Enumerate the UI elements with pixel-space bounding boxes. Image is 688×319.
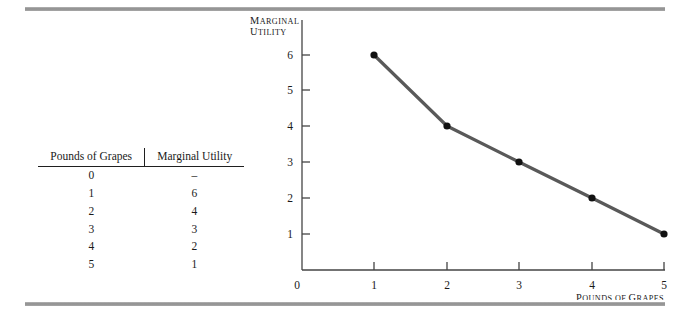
cell-pounds: 2 [38,203,145,221]
y-tick-label-5: 5 [287,84,293,96]
y-axis-label: MARGINAL [250,15,299,26]
table-header-row: Pounds of Grapes Marginal Utility [38,148,244,167]
cell-utility: 1 [145,256,244,274]
table-body: 0 – 1 6 2 4 3 3 4 2 5 1 [38,167,244,275]
cell-utility: 6 [145,185,244,203]
y-axis-label-line2: UTILITY [250,26,287,37]
data-point-2 [443,122,450,129]
table: Pounds of Grapes Marginal Utility 0 – 1 … [38,148,244,274]
column-header-marginal-utility: Marginal Utility [145,148,244,167]
cell-utility: 2 [145,238,244,256]
x-axis-tick-labels: 0 1 2 3 4 5 [294,279,667,291]
data-point-1 [370,51,377,58]
table-row: 5 1 [38,256,244,274]
x-tick-label-1: 1 [371,279,377,291]
table-row: 4 2 [38,238,244,256]
cell-pounds: 4 [38,238,145,256]
cell-utility: – [145,167,244,185]
cell-pounds: 3 [38,221,145,239]
x-axis-label-rest-2: RAPES [637,294,665,300]
y-tick-label-4: 4 [287,120,293,132]
y-tick-label-6: 6 [287,49,293,61]
data-line-marginal-utility [374,55,664,234]
cell-pounds: 1 [38,185,145,203]
marginal-utility-table: Pounds of Grapes Marginal Utility 0 – 1 … [38,148,244,274]
cell-pounds: 5 [38,256,145,274]
data-point-4 [588,194,595,201]
y-axis-label-cap-u: U [250,26,258,37]
table-row: 0 – [38,167,244,185]
x-tick-label-2: 2 [444,279,450,291]
column-header-pounds-of-grapes: Pounds of Grapes [38,148,145,167]
x-axis-label-cap-g: G [629,292,637,300]
y-axis-label-rest-1: ARGINAL [260,17,300,26]
y-tick-label-2: 2 [287,192,293,204]
table-row: 2 4 [38,203,244,221]
y-axis-label-cap-m: M [250,15,260,26]
table-row: 3 3 [38,221,244,239]
data-point-markers [370,51,667,237]
marginal-utility-line-chart: MARGINAL UTILITY 6 5 4 3 2 1 [240,10,680,300]
x-tick-label-3: 3 [516,279,522,291]
x-axis-label: POUNDS OF GRAPES [576,292,664,300]
origin-label-0: 0 [294,279,300,291]
bottom-divider-rule [25,302,665,306]
x-tick-label-4: 4 [589,279,595,291]
y-tick-label-1: 1 [287,228,293,240]
chart-svg: MARGINAL UTILITY 6 5 4 3 2 1 [240,10,680,300]
y-axis-ticks [302,55,310,234]
x-axis-label-rest-1: OUNDS OF [582,294,628,300]
cell-utility: 4 [145,203,244,221]
y-axis-tick-labels: 6 5 4 3 2 1 [287,49,293,240]
data-point-5 [660,230,667,237]
x-axis-ticks [374,262,664,270]
cell-utility: 3 [145,221,244,239]
y-axis-label-rest-2: TILITY [258,28,287,37]
y-tick-label-3: 3 [287,156,293,168]
x-tick-label-5: 5 [661,279,667,291]
cell-pounds: 0 [38,167,145,185]
table-row: 1 6 [38,185,244,203]
data-point-3 [515,158,522,165]
